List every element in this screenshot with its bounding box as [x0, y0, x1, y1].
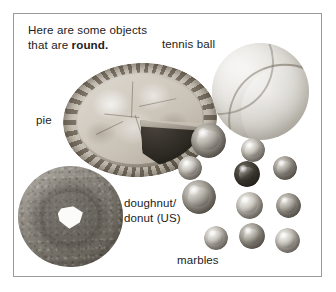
label-tennis-ball: tennis ball — [162, 37, 215, 52]
page-root: Here are some objectsthat are round. ten… — [0, 0, 336, 292]
marble-shading — [178, 156, 202, 180]
marble-shading — [191, 123, 226, 158]
marble — [191, 123, 226, 158]
marble-shading — [239, 223, 265, 249]
marble — [182, 180, 216, 214]
label-pie: pie — [36, 113, 52, 128]
marble — [234, 161, 260, 187]
marble — [273, 156, 297, 180]
marble — [178, 156, 202, 180]
heading-keyword: round. — [72, 38, 109, 51]
marble — [275, 228, 300, 253]
marble — [204, 226, 228, 250]
marble — [241, 138, 265, 162]
label-marbles: marbles — [177, 253, 219, 268]
marble-shading — [241, 138, 265, 162]
tennis-ball-image — [212, 43, 309, 140]
marble-shading — [182, 180, 216, 214]
marble — [276, 193, 301, 218]
page-heading: Here are some objectsthat are round. — [28, 23, 147, 52]
marble-shading — [275, 228, 300, 253]
doughnut-image — [16, 164, 124, 269]
label-doughnut-line-1: doughnut/ — [124, 197, 176, 209]
marble-shading — [236, 192, 263, 219]
heading-line-2-prefix: that are — [28, 38, 72, 51]
heading-line-1: Here are some objects — [28, 23, 147, 36]
marble-shading — [276, 193, 301, 218]
label-doughnut-line-2: donut (US) — [124, 212, 181, 224]
marble-shading — [234, 161, 260, 187]
marble — [236, 192, 263, 219]
marble-shading — [273, 156, 297, 180]
illustration-panel: Here are some objectsthat are round. ten… — [13, 13, 322, 277]
label-doughnut: doughnut/donut (US) — [124, 196, 181, 225]
marble-shading — [204, 226, 228, 250]
marble — [239, 223, 265, 249]
